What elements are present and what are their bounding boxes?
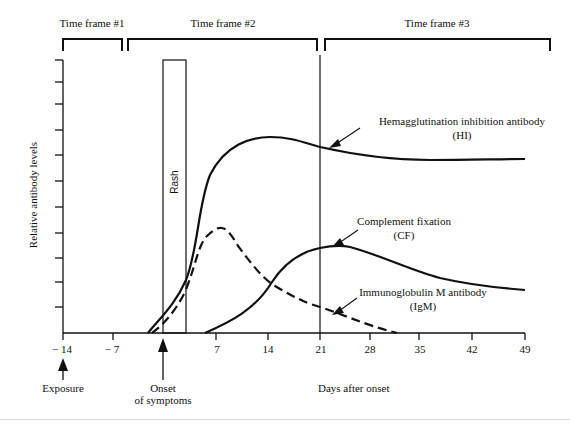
exposure-arrow-icon [58, 358, 68, 371]
hi-label-line2: (HI) [453, 129, 472, 142]
exposure-label: Exposure [42, 382, 84, 394]
igm-label-line1: Immunoglobulin M antibody [359, 286, 487, 298]
x-axis-label: Days after onset [318, 382, 389, 394]
time-frame-1-label: Time frame #1 [60, 17, 125, 29]
hi-label-line1: Hemagglutination inhibition antibody [379, 115, 546, 127]
time-frame-3-label: Time frame #3 [405, 17, 470, 29]
cf-label-line1: Complement fixation [357, 215, 451, 227]
x-tick-49: 49 [520, 343, 532, 355]
x-tick-m14: − 14 [52, 343, 72, 355]
x-axis [63, 333, 525, 340]
onset-label-line2: of symptoms [134, 394, 191, 406]
onset-arrow-icon [158, 338, 168, 352]
bracket-time-frame-3 [325, 39, 550, 51]
x-tick-7: 7 [214, 343, 220, 355]
igm-annotation: Immunoglobulin M antibody (IgM) [332, 286, 487, 315]
x-tick-42: 42 [467, 343, 478, 355]
onset-label-line1: Onset [150, 382, 176, 394]
onset-marker: Onset of symptoms [134, 338, 191, 406]
x-tick-28: 28 [365, 343, 377, 355]
x-tick-14: 14 [263, 343, 275, 355]
hi-curve [148, 137, 525, 333]
hi-annotation: Hemagglutination inhibition antibody (HI… [329, 115, 546, 148]
y-axis-label: Relative antibody levels [27, 142, 39, 248]
cf-label-line2: (CF) [394, 229, 415, 242]
bracket-time-frame-1 [63, 39, 122, 51]
rash-label: Rash [169, 170, 180, 193]
time-frame-2-label: Time frame #2 [191, 17, 256, 29]
hi-arrow-icon [329, 139, 341, 148]
antibody-chart: Time frame #1 Time frame #2 Time frame #… [0, 0, 570, 425]
bottom-divider [0, 419, 570, 420]
time-frame-brackets [63, 39, 550, 51]
exposure-marker: Exposure [42, 358, 84, 394]
cf-annotation: Complement fixation (CF) [332, 215, 451, 247]
x-tick-35: 35 [415, 343, 427, 355]
x-tick-21: 21 [316, 343, 327, 355]
bracket-time-frame-2 [128, 39, 317, 51]
igm-label-line2: (IgM) [410, 300, 437, 313]
x-tick-m7: − 7 [105, 343, 120, 355]
igm-arrow-icon [332, 306, 344, 315]
rash-bar [163, 60, 186, 333]
y-axis [55, 60, 63, 333]
igm-curve [152, 228, 397, 333]
